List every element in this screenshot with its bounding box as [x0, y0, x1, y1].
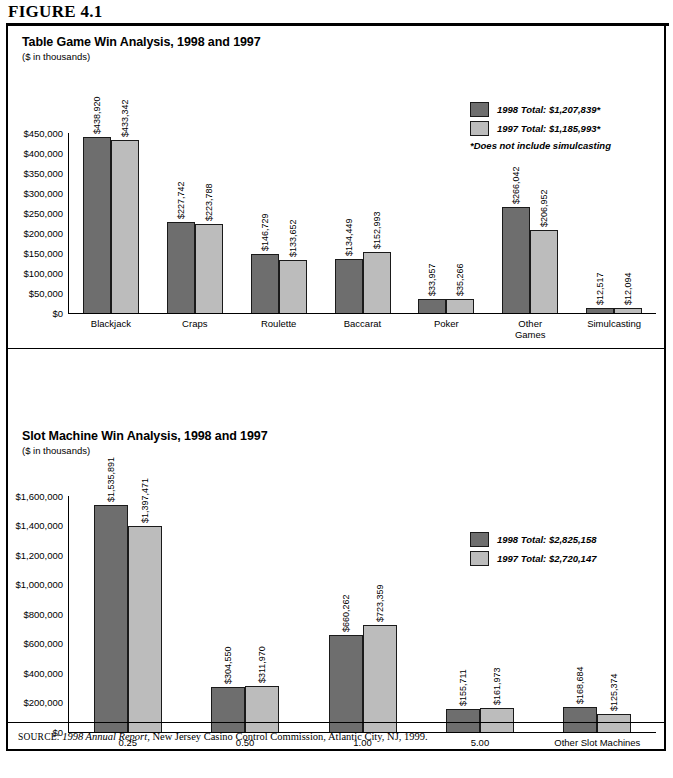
bar-1998: $1,535,891: [94, 505, 128, 732]
bar-value-label: $168,684: [576, 667, 585, 705]
bar-1997: $206,952: [530, 230, 558, 313]
bar-1998: $438,920: [83, 137, 111, 313]
bar-1998: $12,517: [586, 308, 614, 313]
slot-machine-panel: Slot Machine Win Analysis, 1998 and 1997…: [8, 349, 664, 724]
bar-value-label: $152,993: [372, 211, 381, 249]
y-axis-tick: $200,000: [23, 228, 63, 238]
legend-label-1998: 1998 Total: $1,207,839*: [497, 104, 600, 115]
y-axis-tick: $100,000: [23, 268, 63, 278]
bar-value-label: $12,517: [596, 272, 605, 305]
bar-1998: $146,729: [251, 254, 279, 313]
bar-group: $227,742$223,788Craps: [153, 133, 237, 313]
source-rest: , New Jersey Casino Control Commission, …: [147, 731, 427, 742]
bar-group: $1,535,891$1,397,4710.25: [69, 496, 186, 732]
bar-1997: $35,266: [446, 299, 474, 313]
panel-2-subtitle: ($ in thousands): [22, 445, 268, 456]
bar-value-label: $146,729: [260, 214, 269, 252]
bar-value-label: $660,262: [341, 594, 350, 632]
bar-group: $438,920$433,342Blackjack: [69, 133, 153, 313]
source-line: SOURCE: 1998 Annual Report, New Jersey C…: [18, 731, 428, 742]
bar-1997: $723,359: [363, 625, 397, 732]
source-label: SOURCE:: [18, 732, 60, 742]
y-axis-tick: $50,000: [29, 288, 63, 298]
panel-1-title: Table Game Win Analysis, 1998 and 1997: [22, 35, 261, 49]
slot-machine-plot-area: $0$200,000$400,000$600,000$800,000$1,000…: [68, 496, 656, 733]
y-axis-tick: $350,000: [23, 168, 63, 178]
bar-group: $12,517$12,094Simulcasting: [572, 133, 656, 313]
legend-swatch-1998-icon: [470, 102, 489, 117]
bar-value-label: $266,042: [512, 166, 521, 204]
bar-1998: $266,042: [502, 207, 530, 313]
bar-value-label: $133,652: [288, 219, 297, 257]
bar-value-label: $438,920: [92, 97, 101, 135]
bar-1997: $152,993: [363, 252, 391, 313]
bar-groups-1: $438,920$433,342Blackjack$227,742$223,78…: [69, 133, 656, 313]
bar-value-label: $125,374: [610, 673, 619, 711]
bar-group: $266,042$206,952Other Games: [488, 133, 572, 313]
bar-1997: $311,970: [245, 686, 279, 732]
bar-group: $304,550$311,9700.50: [186, 496, 303, 732]
bar-value-label: $12,094: [624, 273, 633, 306]
y-axis-tick: $300,000: [23, 188, 63, 198]
bar-1997: $133,652: [279, 260, 307, 313]
bar-1997: $1,397,471: [128, 526, 162, 732]
y-axis-tick: $0: [52, 308, 63, 318]
bar-1998: $304,550: [211, 687, 245, 732]
bar-1997: $161,973: [480, 708, 514, 732]
bar-group: $660,262$723,3591.00: [304, 496, 421, 732]
x-axis-label: Roulette: [237, 318, 321, 329]
y-axis-tick: $1,200,000: [15, 550, 63, 560]
bar-value-label: $33,957: [428, 264, 437, 297]
y-axis-tick: $400,000: [23, 668, 63, 678]
figure-box: Table Game Win Analysis, 1998 and 1997 (…: [6, 26, 666, 751]
y-axis-tick: $150,000: [23, 248, 63, 258]
figure-heading: FIGURE 4.1: [0, 0, 673, 23]
bar-value-label: $1,535,891: [106, 457, 115, 502]
x-axis-label: Other Games: [488, 318, 572, 340]
bar-group: $168,684$125,374Other Slot Machines: [539, 496, 656, 732]
panel-1-subtitle: ($ in thousands): [22, 51, 261, 62]
y-axis-tick: $800,000: [23, 609, 63, 619]
bar-value-label: $134,449: [344, 219, 353, 257]
source-title: 1998 Annual Report: [62, 731, 147, 742]
y-axis-tick: $1,400,000: [15, 521, 63, 531]
bar-value-label: $155,711: [458, 669, 467, 706]
x-axis-label: 5.00: [421, 737, 538, 748]
bar-1997: $12,094: [614, 308, 642, 313]
x-axis-label: Poker: [404, 318, 488, 329]
y-axis-tick: $600,000: [23, 639, 63, 649]
bar-group: $146,729$133,652Roulette: [237, 133, 321, 313]
bar-value-label: $161,973: [492, 668, 501, 706]
bar-value-label: $35,266: [456, 263, 465, 296]
bar-value-label: $206,952: [540, 190, 549, 228]
table-game-panel: Table Game Win Analysis, 1998 and 1997 (…: [8, 26, 664, 348]
bar-1998: $155,711: [446, 709, 480, 732]
bar-1998: $134,449: [335, 259, 363, 313]
source-divider: [8, 722, 664, 723]
bar-group: $134,449$152,993Baccarat: [321, 133, 405, 313]
bar-1998: $33,957: [418, 299, 446, 313]
y-axis-tick: $1,600,000: [15, 491, 63, 501]
bar-value-label: $311,970: [258, 646, 267, 683]
bar-1998: $660,262: [329, 635, 363, 732]
x-axis-label: Other Slot Machines: [539, 737, 656, 748]
panel-2-title: Slot Machine Win Analysis, 1998 and 1997: [22, 429, 268, 443]
bar-1998: $227,742: [167, 222, 195, 313]
y-axis-tick: $200,000: [23, 698, 63, 708]
bar-group: $33,957$35,266Poker: [404, 133, 488, 313]
legend-row-1998: 1998 Total: $1,207,839*: [470, 102, 611, 117]
bar-1997: $223,788: [195, 224, 223, 314]
table-game-plot-area: $0$50,000$100,000$150,000$200,000$250,00…: [68, 133, 656, 314]
bar-value-label: $1,397,471: [140, 478, 149, 523]
bar-value-label: $723,359: [375, 585, 384, 623]
y-axis-tick: $450,000: [23, 128, 63, 138]
bar-1998: $168,684: [563, 707, 597, 732]
x-axis-label: Blackjack: [69, 318, 153, 329]
bar-group: $155,711$161,9735.00: [421, 496, 538, 732]
x-axis-label: Simulcasting: [572, 318, 656, 329]
bar-1997: $433,342: [111, 140, 139, 313]
bar-value-label: $304,550: [224, 647, 233, 685]
x-axis-label: Baccarat: [321, 318, 405, 329]
x-axis-label: Craps: [153, 318, 237, 329]
bar-value-label: $227,742: [176, 181, 185, 219]
